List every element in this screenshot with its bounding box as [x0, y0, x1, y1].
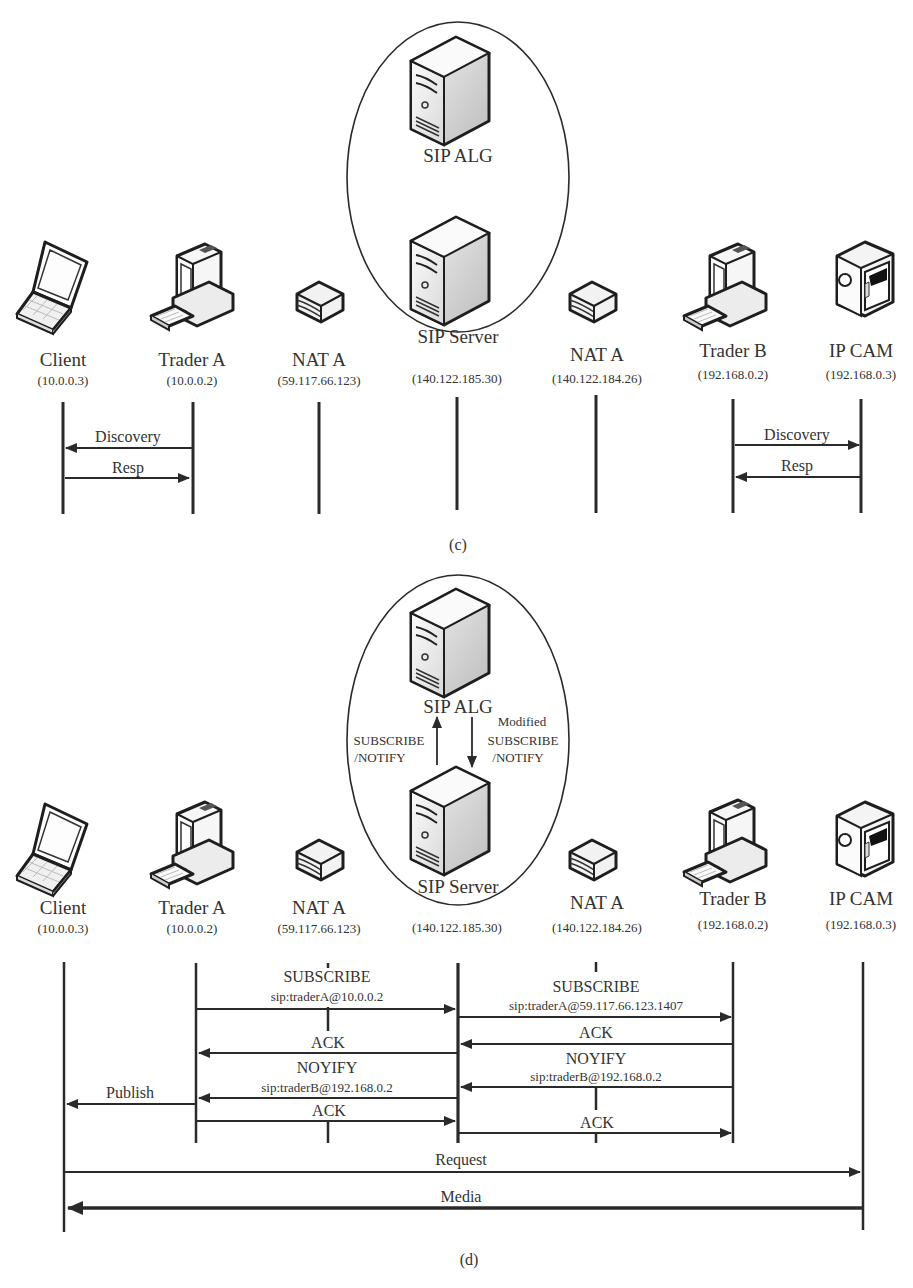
ip-camera-icon: [837, 242, 893, 316]
msg-subscribe-right: SUBSCRIBE: [552, 978, 639, 995]
server-icon: [411, 589, 489, 697]
msg-notify-right-uri: sip:traderB@192.168.0.2: [530, 1069, 662, 1084]
node-ip-cam-ip: (192.168.0.3): [826, 917, 896, 932]
node-trader-a-ip: (10.0.0.2): [167, 921, 218, 936]
node-nat-a-right-ip: (140.122.184.26): [552, 371, 642, 386]
inner-label-modified: Modified: [498, 714, 547, 729]
laptop-icon: [17, 242, 87, 334]
inner-label-subscribe: SUBSCRIBE: [354, 733, 425, 748]
msg-subscribe-left: SUBSCRIBE: [283, 968, 370, 985]
caption-d: (d): [460, 1251, 479, 1269]
sip-alg-label: SIP ALG: [423, 145, 493, 166]
panel-c: SIP ALG SIP Server Client (10.0.0.3) Tra…: [17, 22, 896, 554]
desktop-pc-icon: [151, 244, 233, 330]
node-trader-b-name: Trader B: [699, 340, 766, 361]
msg-discovery-left: Discovery: [95, 428, 161, 446]
inner-label-modified-notify: /NOTIFY: [492, 750, 544, 765]
desktop-pc-icon: [684, 800, 766, 886]
sip-server-label: SIP Server: [417, 326, 499, 347]
msg-discovery-right: Discovery: [764, 426, 830, 444]
node-trader-b-ip: (192.168.0.2): [698, 917, 768, 932]
node-ip-cam-name: IP CAM: [829, 888, 893, 909]
node-trader-a-name: Trader A: [158, 897, 226, 918]
router-icon: [297, 282, 343, 322]
msg-notify-left-uri: sip:traderB@192.168.0.2: [261, 1080, 393, 1095]
sip-alg-label: SIP ALG: [423, 696, 493, 717]
node-ip-cam-ip: (192.168.0.3): [826, 367, 896, 382]
msg-notify-right: NOYIFY: [566, 1050, 627, 1067]
node-nat-a-left-name: NAT A: [292, 897, 346, 918]
server-icon: [411, 767, 489, 875]
msg-media: Media: [441, 1188, 482, 1205]
node-client-name: Client: [40, 349, 87, 370]
node-trader-a-name: Trader A: [158, 349, 226, 370]
node-nat-a-right-name: NAT A: [570, 344, 624, 365]
desktop-pc-icon: [151, 802, 233, 888]
server-icon: [411, 37, 489, 145]
messages: [65, 445, 860, 478]
msg-ack-right-2: ACK: [580, 1114, 614, 1131]
msg-notify-left: NOYIFY: [297, 1059, 358, 1076]
node-trader-a-ip: (10.0.0.2): [167, 373, 218, 388]
router-icon: [297, 840, 343, 880]
msg-subscribe-right-uri: sip:traderA@59.117.66.123.1407: [509, 998, 683, 1013]
node-trader-b-ip: (192.168.0.2): [698, 367, 768, 382]
msg-ack-right-1: ACK: [579, 1024, 613, 1041]
msg-ack-left-1: ACK: [311, 1034, 345, 1051]
node-nat-a-right-ip: (140.122.184.26): [552, 920, 642, 935]
node-nat-a-left-ip: (59.117.66.123): [278, 373, 361, 388]
msg-resp-left: Resp: [112, 459, 144, 477]
node-nat-a-left-name: NAT A: [292, 349, 346, 370]
node-sip-server-ip: (140.122.185.30): [412, 371, 502, 386]
sequence-diagram: SIP ALG SIP Server Client (10.0.0.3) Tra…: [0, 0, 913, 1288]
sip-server-label: SIP Server: [417, 876, 499, 897]
node-client-ip: (10.0.0.3): [38, 921, 89, 936]
ip-camera-icon: [837, 802, 893, 876]
lifelines: [63, 395, 861, 514]
laptop-icon: [17, 804, 87, 896]
msg-request: Request: [435, 1151, 487, 1169]
node-nat-a-right-name: NAT A: [570, 892, 624, 913]
caption-c: (c): [449, 536, 467, 554]
inner-label-modified-subscribe: SUBSCRIBE: [488, 733, 559, 748]
node-sip-server-ip: (140.122.185.30): [412, 920, 502, 935]
server-icon: [411, 217, 489, 325]
desktop-pc-icon: [684, 244, 766, 330]
node-nat-a-left-ip: (59.117.66.123): [278, 921, 361, 936]
node-client-name: Client: [40, 897, 87, 918]
messages: [65, 1009, 862, 1208]
node-ip-cam-name: IP CAM: [829, 340, 893, 361]
msg-subscribe-left-uri: sip:traderA@10.0.0.2: [271, 989, 384, 1004]
msg-publish: Publish: [106, 1084, 154, 1101]
node-trader-b-name: Trader B: [699, 888, 766, 909]
msg-resp-right: Resp: [781, 457, 813, 475]
inner-label-notify: /NOTIFY: [354, 750, 406, 765]
panel-d: SIP ALG SIP Server SUBSCRIBE /NOTIFY Mod…: [17, 575, 896, 1269]
msg-ack-left-2: ACK: [312, 1102, 346, 1119]
node-client-ip: (10.0.0.3): [38, 373, 89, 388]
router-icon: [570, 282, 616, 322]
router-icon: [570, 840, 616, 880]
